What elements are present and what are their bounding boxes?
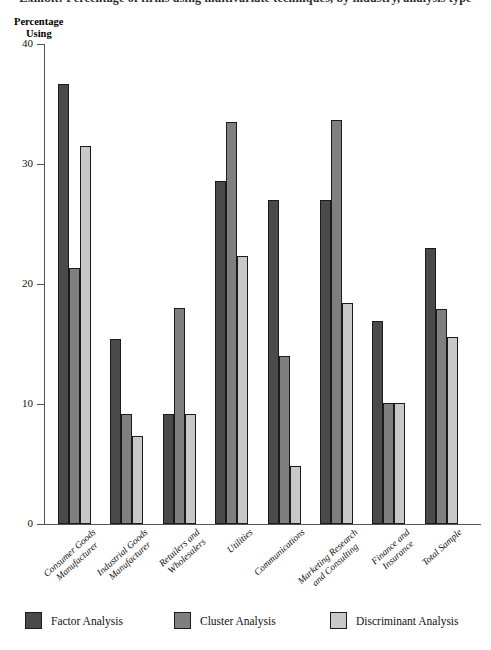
bar[interactable] <box>163 414 174 524</box>
bar[interactable] <box>226 122 237 524</box>
bar-group <box>320 44 353 524</box>
x-axis-label: Communications <box>252 527 307 578</box>
x-axis-label: Total Sample <box>420 527 464 568</box>
bar[interactable] <box>331 120 342 524</box>
legend-label: Factor Analysis <box>51 615 123 627</box>
bar[interactable] <box>69 268 80 524</box>
y-axis-title-line1: Percentage <box>14 16 63 27</box>
bar-group <box>268 44 301 524</box>
y-axis-tick: 20 <box>37 284 44 285</box>
y-axis-tick: 10 <box>37 404 44 405</box>
bar[interactable] <box>290 466 301 524</box>
bar[interactable] <box>383 403 394 524</box>
plot-area: 010203040 <box>44 44 480 524</box>
chart-title-fragment: Exhibit: Percentage of firms using multi… <box>0 0 491 5</box>
chart-legend: Factor AnalysisCluster AnalysisDiscrimin… <box>0 612 491 642</box>
x-axis-label-line: Total Sample <box>420 527 464 568</box>
bar[interactable] <box>320 200 331 524</box>
legend-swatch-icon <box>174 612 191 629</box>
bar[interactable] <box>174 308 185 524</box>
bar[interactable] <box>121 414 132 524</box>
y-axis-tick-label: 30 <box>22 157 33 169</box>
bar[interactable] <box>425 248 436 524</box>
bar-group <box>163 44 196 524</box>
y-axis-tick: 30 <box>37 164 44 165</box>
x-axis-label: Utilities <box>225 527 255 555</box>
legend-swatch-icon <box>25 612 42 629</box>
y-axis-tick: 40 <box>37 44 44 45</box>
bar-group <box>110 44 143 524</box>
bar[interactable] <box>268 200 279 524</box>
x-axis-category-labels: Consumer GoodsManufacturerIndustrial Goo… <box>44 527 491 605</box>
x-axis-label: Marketing Researchand Consulting <box>295 527 366 594</box>
bar-group <box>425 44 458 524</box>
bar[interactable] <box>80 146 91 524</box>
bar[interactable] <box>372 321 383 524</box>
legend-swatch-icon <box>330 612 347 629</box>
bar[interactable] <box>110 339 121 524</box>
bar[interactable] <box>279 356 290 524</box>
x-axis-label: Retailers andWholesalers <box>157 527 209 577</box>
bar[interactable] <box>394 403 405 524</box>
x-axis-label-line: Communications <box>252 527 307 578</box>
x-axis-label: Industrial GoodsManufacturer <box>95 527 157 586</box>
y-axis-tick: 0 <box>37 524 44 525</box>
x-axis-label: Finance andInsurance <box>369 527 419 575</box>
x-axis-label: Consumer GoodsManufacturer <box>41 527 104 587</box>
bar[interactable] <box>237 256 248 524</box>
bar[interactable] <box>436 309 447 524</box>
bar-group <box>372 44 405 524</box>
bar-group <box>58 44 91 524</box>
bar[interactable] <box>215 181 226 524</box>
bar[interactable] <box>447 337 458 524</box>
legend-item-factor-analysis[interactable]: Factor Analysis <box>25 612 123 629</box>
bar[interactable] <box>185 414 196 524</box>
x-axis-line <box>44 524 481 525</box>
y-axis-tick-label: 10 <box>22 397 33 409</box>
bar-series-container <box>44 44 480 524</box>
legend-label: Discriminant Analysis <box>356 615 459 627</box>
y-axis-tick-label: 0 <box>28 517 34 529</box>
y-axis-tick-label: 40 <box>22 37 33 49</box>
legend-item-discriminant-analysis[interactable]: Discriminant Analysis <box>330 612 459 629</box>
legend-label: Cluster Analysis <box>200 615 276 627</box>
y-axis-tick-label: 20 <box>22 277 33 289</box>
legend-item-cluster-analysis[interactable]: Cluster Analysis <box>174 612 276 629</box>
bar[interactable] <box>342 303 353 524</box>
bar-group <box>215 44 248 524</box>
bar[interactable] <box>58 84 69 524</box>
x-axis-label-line: Utilities <box>225 527 255 555</box>
bar[interactable] <box>132 436 143 524</box>
